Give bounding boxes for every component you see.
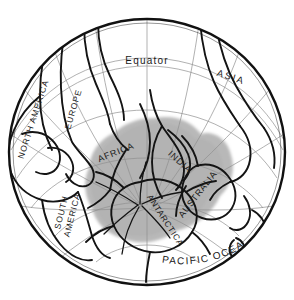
label-equator: Equator xyxy=(125,55,168,66)
globe-map-svg: Equator NORTH AMERICA EUROPE ASIA AFRICA… xyxy=(0,0,294,300)
gondwanaland-globe-figure: Equator NORTH AMERICA EUROPE ASIA AFRICA… xyxy=(0,0,294,300)
